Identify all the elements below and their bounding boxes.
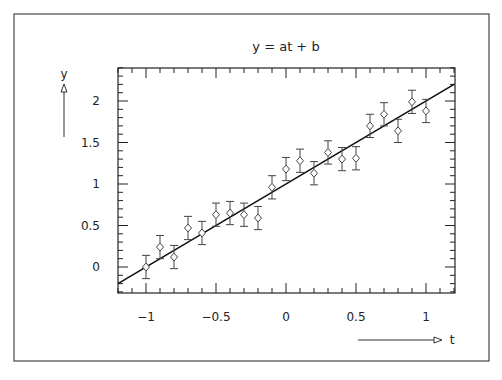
x-tick-label: −0.5 (201, 310, 230, 324)
x-tick-label: 0 (282, 310, 290, 324)
y-tick-label: 2 (92, 94, 100, 108)
data-point (338, 147, 346, 170)
y-tick-label: 0 (92, 260, 100, 274)
x-tick-label: 0.5 (346, 310, 365, 324)
data-point (296, 149, 304, 172)
data-point (366, 114, 374, 137)
x-tick-label: −1 (137, 310, 155, 324)
data-point (380, 103, 388, 126)
data-point (394, 119, 402, 142)
data-point (268, 176, 276, 199)
y-axis-label: y (60, 67, 67, 81)
y-tick-label: 1 (92, 177, 100, 191)
data-point (212, 203, 220, 226)
x-axis-arrow: t (358, 333, 455, 347)
y-tick-label: 1.5 (81, 136, 100, 150)
data-point (254, 206, 262, 229)
y-axis-arrow: y (60, 67, 67, 137)
data-point (142, 255, 150, 278)
outer-border (14, 14, 489, 361)
tick-labels: −1−0.500.5100.511.52 (81, 94, 430, 324)
y-tick-label: 0.5 (81, 219, 100, 233)
data-point (352, 147, 360, 170)
data-point (282, 157, 290, 180)
chart-title: y = at + b (252, 39, 319, 54)
data-point (198, 221, 206, 244)
x-axis-label: t (450, 333, 455, 347)
chart: y = at + b −1−0.500.5100.511.52 y t (0, 0, 502, 380)
data-point (184, 216, 192, 239)
x-tick-label: 1 (422, 310, 430, 324)
fit-line (118, 84, 454, 283)
data-point (408, 90, 416, 113)
data-point (226, 201, 234, 224)
data-point (156, 235, 164, 258)
